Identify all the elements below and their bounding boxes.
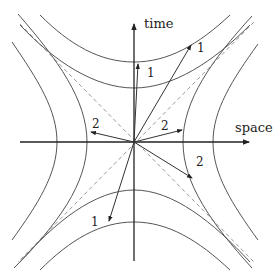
space-axis-label: space xyxy=(235,120,273,135)
vector-label: 2 xyxy=(92,117,100,131)
hyperbola-lower-outer xyxy=(40,222,230,270)
vector-timelike-down xyxy=(109,142,134,221)
hyperbola-left-inner xyxy=(14,14,87,268)
hyperbola-upper-outer xyxy=(20,25,250,88)
vector-label: 1 xyxy=(197,41,205,55)
vector-label: 2 xyxy=(196,155,204,169)
spacetime-diagram: time space 1 1 1 2 2 2 xyxy=(0,0,279,280)
vector-spacelike-right xyxy=(134,130,182,142)
hyperbola-lower-inner xyxy=(20,190,250,262)
vector-label: 1 xyxy=(91,215,99,229)
hyperbola-left-outer xyxy=(12,42,57,240)
time-axis-label: time xyxy=(144,16,174,31)
vector-label: 1 xyxy=(147,66,155,80)
vector-spacelike-left xyxy=(91,132,134,142)
vector-label: 2 xyxy=(161,119,169,133)
